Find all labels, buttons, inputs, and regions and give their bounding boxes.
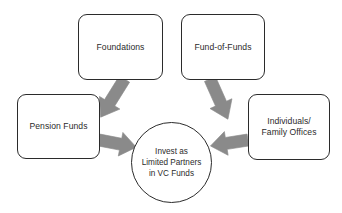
node-pension-funds-label: Pension Funds	[27, 121, 91, 132]
node-individuals-family-offices[interactable]: Individuals/ Family Offices	[248, 94, 330, 160]
node-center-label: Invest as Limited Partners in VC Funds	[142, 146, 202, 180]
arrow-fund-of-funds-to-center	[199, 74, 239, 124]
arrow-individuals-to-center	[209, 128, 250, 158]
node-foundations-label: Foundations	[94, 42, 148, 53]
diagram-canvas: Foundations Fund-of-Funds Pension Funds …	[0, 0, 342, 213]
node-center-invest-as-limited-partners[interactable]: Invest as Limited Partners in VC Funds	[131, 122, 212, 203]
node-fund-of-funds[interactable]: Fund-of-Funds	[181, 14, 265, 80]
node-pension-funds[interactable]: Pension Funds	[17, 94, 100, 159]
node-foundations[interactable]: Foundations	[78, 14, 163, 80]
node-individuals-family-offices-label: Individuals/ Family Offices	[259, 116, 320, 138]
node-fund-of-funds-label: Fund-of-Funds	[191, 42, 254, 53]
